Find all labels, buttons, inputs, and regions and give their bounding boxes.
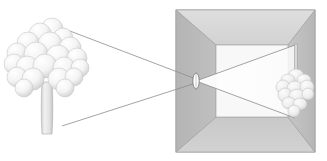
tree-object [4,18,89,134]
tree-trunk [41,82,53,134]
camera-obscura-figure [0,0,327,161]
pinhole-aperture [193,73,199,89]
scene-svg [0,0,327,161]
